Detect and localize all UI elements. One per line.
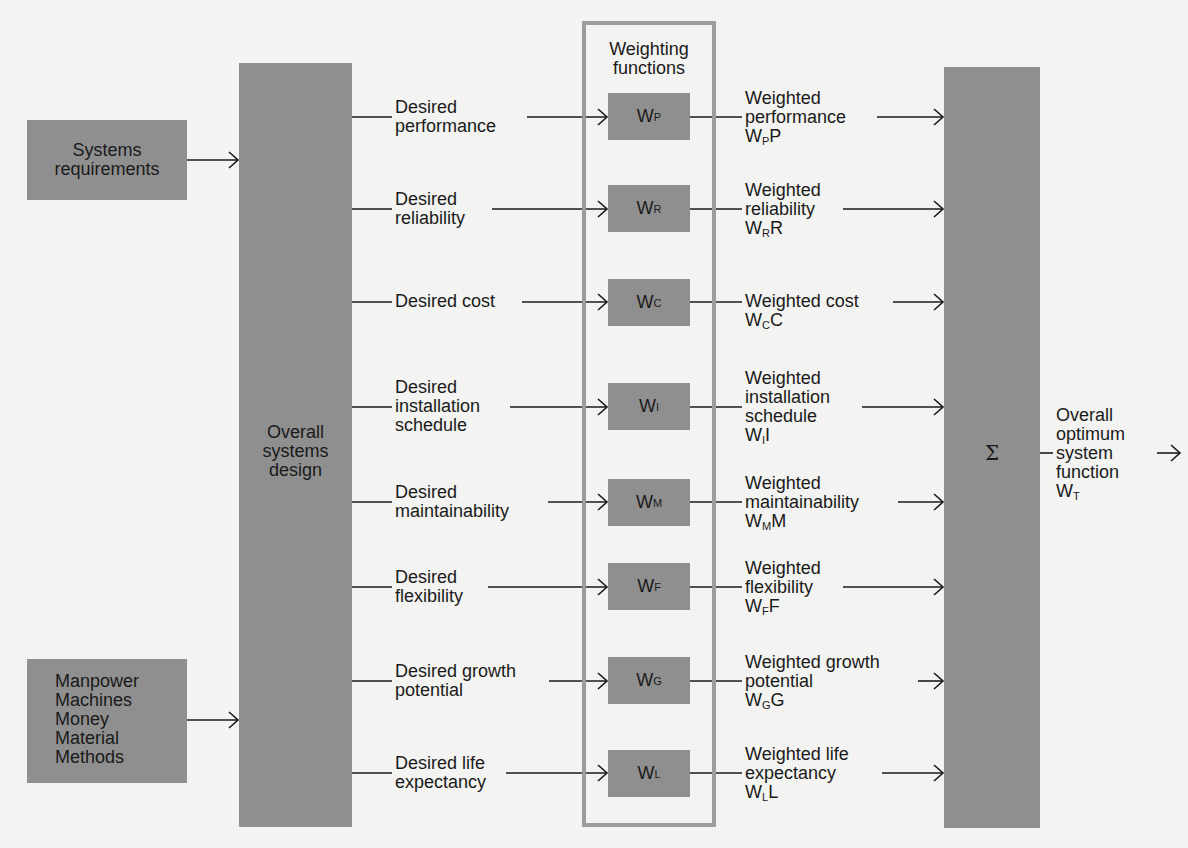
resource-material: Material [55,729,139,748]
weighted-flexibility-label: WeightedflexibilityWFF [745,559,821,621]
weighted-installation-label: WeightedinstallationscheduleWII [745,369,830,450]
desired-reliability-label: Desiredreliability [395,190,465,228]
desired-flexibility-label: Desiredflexibility [395,568,463,606]
sigma-icon: Σ [985,441,999,465]
resource-manpower: Manpower [55,672,139,691]
overall-design-label-1: Overall [239,423,352,442]
weight-box-maintainability: WM [608,479,690,526]
systems-requirements-label-1: Systems [27,141,187,160]
weighted-growth-label: Weighted growthpotentialWGG [745,653,880,715]
desired-growth-label: Desired growthpotential [395,662,516,700]
desired-life-label: Desired lifeexpectancy [395,754,486,792]
overall-optimum-function-label: Overall optimum system function WT [1056,406,1125,506]
weight-box-flexibility: WF [608,563,690,610]
weighted-performance-label: WeightedperformanceWPP [745,89,846,151]
resource-money: Money [55,710,139,729]
weighted-life-label: Weighted lifeexpectancyWLL [745,745,849,807]
desired-performance-label: Desiredperformance [395,98,496,136]
weight-box-reliability: WR [608,185,690,232]
weighted-reliability-label: WeightedreliabilityWRR [745,181,821,243]
overall-design-label-2: systems [239,442,352,461]
weight-box-installation: WI [608,383,690,430]
systems-requirements-label-2: requirements [27,160,187,179]
resource-methods: Methods [55,748,139,767]
overall-design-label-3: design [239,461,352,480]
weighting-functions-title: Weighting functions [586,40,712,78]
resources-block: Manpower Machines Money Material Methods [27,659,187,783]
weight-box-cost: WC [608,279,690,326]
weight-box-life: WL [608,750,690,797]
weight-box-growth: WG [608,657,690,704]
desired-cost-label: Desired cost [395,292,495,311]
systems-requirements-block: Systems requirements [27,120,187,200]
weighted-cost-label: Weighted costWCC [745,292,859,335]
weight-box-performance: WP [608,93,690,140]
overall-systems-design-block: Overall systems design [239,63,352,827]
weighted-maintainability-label: WeightedmaintainabilityWMM [745,474,859,536]
desired-maintainability-label: Desiredmaintainability [395,483,509,521]
desired-installation-label: Desiredinstallationschedule [395,378,480,435]
resource-machines: Machines [55,691,139,710]
